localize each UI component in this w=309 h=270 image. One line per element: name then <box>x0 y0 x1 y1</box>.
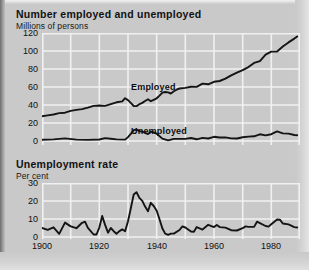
top-ytick-60: 60 <box>8 82 38 92</box>
series-label-employed: Employed <box>131 82 176 92</box>
series-unemployment-rate-line <box>42 192 297 235</box>
xtick-1980: 1980 <box>253 241 289 251</box>
panel-unemployment-rate: Unemployment rate Per cent 30 20 10 0 <box>0 155 309 270</box>
top-ytick-20: 20 <box>8 118 38 128</box>
xtick-1920: 1920 <box>81 241 117 251</box>
top-chart-title: Number employed and unemployed <box>16 8 201 20</box>
bottom-grid-vertical <box>43 183 299 239</box>
bottom-plot-svg <box>42 183 300 239</box>
top-ytick-40: 40 <box>8 100 38 110</box>
top-ytick-0: 0 <box>8 136 38 146</box>
panel-number-employed-unemployed: Number employed and unemployed Millions … <box>0 0 309 155</box>
bottom-ytick-20: 20 <box>8 196 38 206</box>
series-label-unemployed: Unemployed <box>131 126 187 136</box>
top-ytick-100: 100 <box>8 46 38 56</box>
figure-container: Number employed and unemployed Millions … <box>0 0 309 270</box>
bottom-ytick-10: 10 <box>8 214 38 224</box>
bottom-chart-title: Unemployment rate <box>16 158 118 170</box>
xtick-1960: 1960 <box>196 241 232 251</box>
bottom-grid-horizontal <box>42 184 300 237</box>
bottom-plot-area <box>42 183 300 237</box>
xtick-1900: 1900 <box>24 241 60 251</box>
bottom-ytick-30: 30 <box>8 178 38 188</box>
top-ytick-120: 120 <box>8 28 38 38</box>
xtick-1940: 1940 <box>139 241 175 251</box>
top-ytick-80: 80 <box>8 64 38 74</box>
